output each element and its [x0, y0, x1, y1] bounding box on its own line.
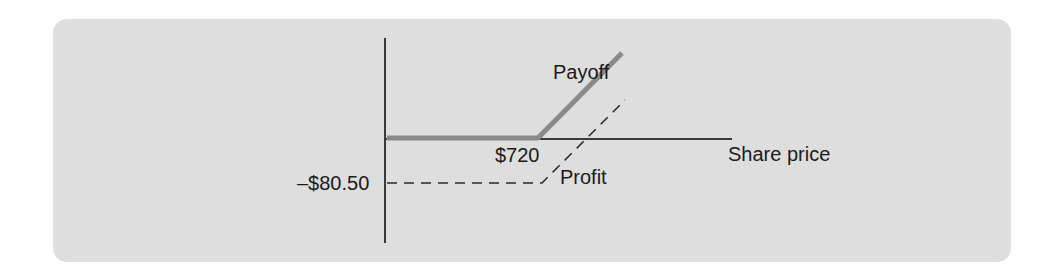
profit-label: Profit — [560, 167, 607, 187]
strike-label: $720 — [495, 145, 540, 165]
payoff-chart — [0, 0, 1059, 275]
premium-label: –$80.50 — [297, 173, 369, 193]
x-axis-label: Share price — [728, 144, 830, 164]
payoff-label: Payoff — [553, 62, 609, 82]
